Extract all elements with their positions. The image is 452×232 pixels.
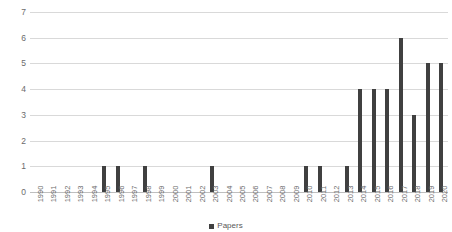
y-axis-tick-label: 4 xyxy=(21,85,26,94)
bar-slot xyxy=(192,12,205,192)
y-axis-tick-label: 6 xyxy=(21,33,26,42)
x-axis-tick: 2010 xyxy=(300,192,313,222)
bar-slot xyxy=(30,12,43,192)
bar-slot xyxy=(259,12,272,192)
bar-slot xyxy=(232,12,245,192)
bar-slot xyxy=(43,12,56,192)
bar[interactable] xyxy=(358,89,362,192)
bar-slot xyxy=(97,12,110,192)
bar-chart: 76543210 1990199119921993199419951996199… xyxy=(0,0,452,232)
bar[interactable] xyxy=(385,89,389,192)
bar-slot xyxy=(408,12,421,192)
x-axis-tick: 2018 xyxy=(408,192,421,222)
x-axis-tick: 2001 xyxy=(178,192,191,222)
x-axis-tick: 1993 xyxy=(70,192,83,222)
bar-slot xyxy=(354,12,367,192)
x-axis-tick: 2015 xyxy=(367,192,380,222)
y-axis-tick-label: 7 xyxy=(21,8,26,17)
x-axis-tick: 1991 xyxy=(43,192,56,222)
bar-slot xyxy=(367,12,380,192)
x-axis-tick: 2002 xyxy=(192,192,205,222)
bar-slot xyxy=(70,12,83,192)
y-axis-tick-label: 1 xyxy=(21,162,26,171)
x-axis-tick: 1998 xyxy=(138,192,151,222)
x-axis-tick: 2019 xyxy=(421,192,434,222)
bar-slot xyxy=(421,12,434,192)
x-axis-tick: 1992 xyxy=(57,192,70,222)
bar-slot xyxy=(178,12,191,192)
chart-legend: Papers xyxy=(0,222,452,230)
bar-slot xyxy=(273,12,286,192)
x-axis-tick: 2012 xyxy=(327,192,340,222)
bar-slot xyxy=(165,12,178,192)
x-axis-tick: 2008 xyxy=(273,192,286,222)
x-axis-tick: 2013 xyxy=(340,192,353,222)
bars-container xyxy=(30,12,448,192)
y-axis-tick-label: 2 xyxy=(21,136,26,145)
x-axis-tick: 2009 xyxy=(286,192,299,222)
bar-slot xyxy=(219,12,232,192)
x-axis-tick: 1994 xyxy=(84,192,97,222)
bar-slot xyxy=(300,12,313,192)
x-axis-tick: 2000 xyxy=(165,192,178,222)
y-axis: 76543210 xyxy=(0,12,30,192)
plot-area xyxy=(30,12,448,192)
bar[interactable] xyxy=(399,38,403,192)
bar-slot xyxy=(340,12,353,192)
x-axis-tick: 2011 xyxy=(313,192,326,222)
x-axis-tick: 1996 xyxy=(111,192,124,222)
x-axis-tick: 2020 xyxy=(435,192,448,222)
legend-swatch-papers xyxy=(209,224,214,229)
x-axis-tick: 2017 xyxy=(394,192,407,222)
bar-slot xyxy=(151,12,164,192)
x-axis: 1990199119921993199419951996199719981999… xyxy=(30,192,448,222)
bar-slot xyxy=(313,12,326,192)
bar-slot xyxy=(381,12,394,192)
x-axis-tick-label: 2020 xyxy=(441,186,449,203)
x-axis-tick: 2016 xyxy=(381,192,394,222)
bar-slot xyxy=(246,12,259,192)
x-axis-tick: 2014 xyxy=(354,192,367,222)
bar-slot xyxy=(205,12,218,192)
x-axis-tick: 2006 xyxy=(246,192,259,222)
bar-slot xyxy=(435,12,448,192)
bar-slot xyxy=(124,12,137,192)
y-axis-tick-label: 0 xyxy=(21,188,26,197)
bar[interactable] xyxy=(439,63,443,192)
x-axis-tick: 1997 xyxy=(124,192,137,222)
x-axis-tick: 2003 xyxy=(205,192,218,222)
x-axis-tick: 2004 xyxy=(219,192,232,222)
x-axis-tick: 2005 xyxy=(232,192,245,222)
y-axis-tick-label: 5 xyxy=(21,59,26,68)
bar-slot xyxy=(286,12,299,192)
x-axis-tick: 2007 xyxy=(259,192,272,222)
y-axis-tick-label: 3 xyxy=(21,111,26,120)
bar-slot xyxy=(394,12,407,192)
bar-slot xyxy=(84,12,97,192)
bar[interactable] xyxy=(426,63,430,192)
bar-slot xyxy=(138,12,151,192)
bar-slot xyxy=(111,12,124,192)
x-axis-tick: 1999 xyxy=(151,192,164,222)
bar[interactable] xyxy=(372,89,376,192)
legend-label-papers: Papers xyxy=(217,222,242,230)
x-axis-tick: 1995 xyxy=(97,192,110,222)
bar-slot xyxy=(327,12,340,192)
bar-slot xyxy=(57,12,70,192)
x-axis-tick: 1990 xyxy=(30,192,43,222)
bar[interactable] xyxy=(412,115,416,192)
